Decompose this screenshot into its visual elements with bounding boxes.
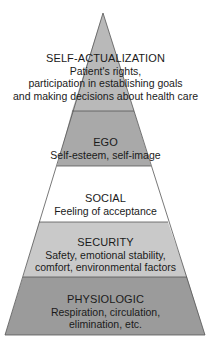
level-security: SECURITY Safety, emotional stability, co…: [0, 236, 211, 274]
level-desc-line: participation in establishing goals: [0, 77, 211, 90]
level-desc-line: Self-esteem, self-image: [0, 149, 211, 162]
pyramid-shape: [0, 0, 211, 338]
level-title: SELF-ACTUALIZATION: [0, 52, 211, 65]
level-title: SECURITY: [0, 236, 211, 249]
level-self-actualization: SELF-ACTUALIZATION Patient's rights, par…: [0, 52, 211, 102]
level-desc-line: Safety, emotional stability,: [0, 249, 211, 262]
level-ego: EGO Self-esteem, self-image: [0, 136, 211, 161]
level-social: SOCIAL Feeling of acceptance: [0, 192, 211, 217]
level-desc-line: comfort, environmental factors: [0, 261, 211, 274]
level-desc-line: and making decisions about health care: [0, 90, 211, 103]
level-title: SOCIAL: [0, 192, 211, 205]
level-desc-line: Feeling of acceptance: [0, 205, 211, 218]
level-title: EGO: [0, 136, 211, 149]
level-desc-line: elimination, etc.: [0, 318, 211, 331]
level-desc-line: Respiration, circulation,: [0, 306, 211, 319]
level-desc-line: Patient's rights,: [0, 65, 211, 78]
level-physiologic: PHYSIOLOGIC Respiration, circulation, el…: [0, 293, 211, 331]
level-title: PHYSIOLOGIC: [0, 293, 211, 306]
